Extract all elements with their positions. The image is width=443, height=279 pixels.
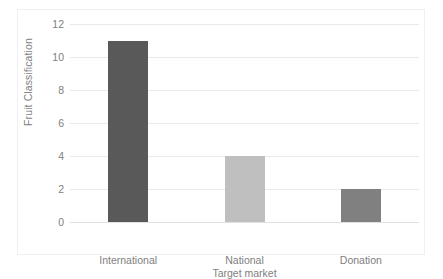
x-axis-title: Target market (70, 267, 419, 279)
y-tick-label: 6 (38, 117, 64, 129)
x-tick-label: National (225, 254, 264, 266)
y-tick-label: 8 (38, 84, 64, 96)
y-axis-tick-labels: 12 10 8 6 4 2 0 (36, 24, 64, 222)
bar-donation (341, 189, 381, 222)
y-tick-label: 10 (38, 51, 64, 63)
y-tick-label: 2 (38, 183, 64, 195)
plot-area: International National Donation Target m… (70, 24, 419, 222)
y-tick-label: 4 (38, 150, 64, 162)
y-tick-label: 12 (38, 18, 64, 30)
x-tick-label: Donation (340, 254, 382, 266)
axis-baseline (70, 222, 419, 223)
y-axis-title: Fruit Classification (22, 12, 34, 152)
bar-national (225, 156, 265, 222)
bar-international (108, 41, 148, 223)
gridline (70, 24, 419, 25)
x-tick-label: International (99, 254, 157, 266)
y-tick-label: 0 (38, 216, 64, 228)
